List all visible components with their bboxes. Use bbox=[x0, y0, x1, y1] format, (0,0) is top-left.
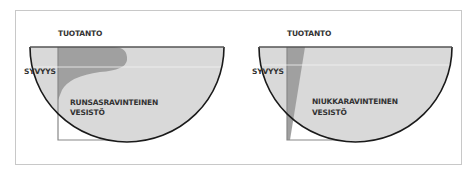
production-label: TUOTANTO bbox=[58, 29, 102, 39]
production-label: TUOTANTO bbox=[287, 29, 331, 39]
eutrophic-lake bbox=[30, 47, 224, 142]
depth-label: SYVYYS bbox=[252, 67, 284, 77]
lake-type-line2: VESISTÖ bbox=[312, 108, 347, 118]
lake-type-line1: NIUKKARAVINTEINEN bbox=[312, 97, 398, 107]
lake-type-line2: VESISTÖ bbox=[70, 108, 105, 118]
depth-label: SYVYYS bbox=[24, 67, 56, 77]
lake-type-line1: RUNSASRAVINTEINEN bbox=[70, 98, 158, 108]
lake-diagrams bbox=[0, 0, 473, 178]
oligotrophic-lake bbox=[259, 47, 452, 142]
